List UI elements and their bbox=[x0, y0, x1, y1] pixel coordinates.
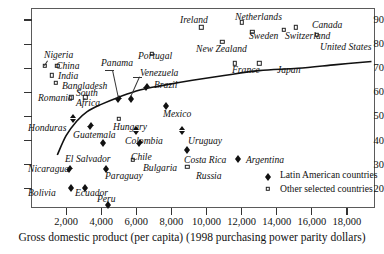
x-axis-tick bbox=[66, 208, 67, 215]
x-axis-tick-label: 18,000 bbox=[332, 216, 361, 227]
point-label-uruguay: Uruguay bbox=[188, 136, 222, 146]
x-axis-tick bbox=[206, 208, 207, 215]
point-label-hungary: Hungary bbox=[113, 122, 147, 132]
y-axis-tick bbox=[24, 44, 32, 45]
y-axis-tick bbox=[24, 140, 32, 141]
point-label-switzerland: Switzerland bbox=[285, 31, 330, 41]
legend-item-latin-american: Latin American countries bbox=[262, 168, 378, 182]
point-label-ireland: Ireland bbox=[180, 15, 208, 25]
point-label-venezuela: Venezuela bbox=[140, 68, 178, 78]
point-label-panama: Panama bbox=[101, 58, 133, 68]
point-label-netherlands: Netherlands bbox=[235, 12, 282, 22]
legend-label: Latin American countries bbox=[280, 169, 378, 180]
point-label-chile: Chile bbox=[131, 152, 152, 162]
x-axis-tick-label: 10,000 bbox=[192, 216, 221, 227]
scatter-chart: 2030405060708090 2,0004,0006,0008,00010,… bbox=[0, 0, 384, 254]
y-axis-tick bbox=[24, 92, 32, 93]
point-label-nigeria: Nigeria bbox=[44, 50, 73, 60]
x-axis-tick bbox=[171, 208, 172, 215]
leader-stub-1 bbox=[133, 77, 142, 78]
point-label-bulgaria: Bulgaria bbox=[143, 163, 177, 173]
y-axis-tick-label: 70 bbox=[362, 63, 384, 73]
x-axis-tick-label: 12,000 bbox=[227, 216, 256, 227]
x-axis-tick bbox=[276, 208, 277, 215]
data-point-paraguay bbox=[103, 165, 109, 169]
point-label-new-zealand: New Zealand bbox=[196, 44, 247, 54]
point-label-russia: Russia bbox=[196, 171, 222, 181]
x-axis-tick-label: 6,000 bbox=[124, 216, 148, 227]
x-axis-tick bbox=[311, 208, 312, 215]
point-label-peru: Peru bbox=[97, 194, 116, 204]
data-point-bolivia bbox=[68, 184, 74, 188]
x-axis-tick-label: 2,000 bbox=[54, 216, 78, 227]
data-point-russia bbox=[185, 165, 189, 169]
data-point-costa-rica bbox=[184, 146, 190, 150]
point-label-argentina: Argentina bbox=[246, 155, 284, 165]
point-label-sweden: Sweden bbox=[249, 31, 278, 41]
point-label-canada: Canada bbox=[312, 20, 342, 30]
point-label-south-africa: SouthAfrica bbox=[76, 88, 100, 108]
data-point-guatemala bbox=[88, 122, 94, 126]
x-axis-tick-label: 4,000 bbox=[89, 216, 113, 227]
data-point-bangladesh bbox=[53, 80, 57, 84]
leader-stub-0 bbox=[105, 70, 114, 71]
x-axis-tick bbox=[101, 208, 102, 215]
y-axis-tick bbox=[24, 68, 32, 69]
point-label-colombia: Colombia bbox=[125, 136, 163, 146]
point-label-honduras: Honduras bbox=[28, 123, 66, 133]
point-label-bolivia: Bolivia bbox=[28, 188, 56, 198]
open-square-icon bbox=[266, 187, 270, 191]
data-point-india bbox=[50, 73, 54, 77]
point-label-japan: Japan bbox=[277, 65, 300, 75]
point-label-france: France bbox=[232, 65, 260, 75]
x-axis-tick bbox=[136, 208, 137, 215]
data-point-argentina bbox=[235, 155, 241, 159]
data-point-ireland bbox=[199, 25, 203, 29]
x-axis-tick-label: 14,000 bbox=[262, 216, 291, 227]
data-point-brazil bbox=[144, 83, 150, 87]
data-point-canada bbox=[294, 25, 298, 29]
y-axis-tick-label: 60 bbox=[362, 87, 384, 97]
x-axis-tick bbox=[346, 208, 347, 215]
x-axis-tick-label: 16,000 bbox=[297, 216, 326, 227]
point-label-united-states: United States bbox=[320, 42, 371, 52]
point-label-nicaragua: Nicaragua bbox=[28, 164, 69, 174]
point-label-guatemala: Guatemala bbox=[73, 130, 116, 140]
y-axis-tick-label: 50 bbox=[362, 111, 384, 121]
filled-diamond-icon bbox=[265, 173, 271, 177]
data-point-mexico bbox=[163, 102, 169, 106]
data-point-honduras bbox=[70, 114, 76, 118]
y-axis-tick-label: 40 bbox=[362, 136, 384, 146]
point-label-portugal: Portugal bbox=[138, 51, 172, 61]
point-label-brazil: Brazil bbox=[154, 80, 177, 90]
point-label-el-salvador: El Salvador bbox=[65, 154, 111, 164]
y-axis-tick-label: 90 bbox=[362, 15, 384, 25]
point-label-costa-rica: Costa Rica bbox=[184, 155, 226, 165]
y-axis-tick bbox=[24, 116, 32, 117]
y-axis-tick bbox=[24, 19, 32, 20]
legend-item-other-selected: Other selected countries bbox=[262, 182, 378, 196]
x-axis-title: Gross domestic product (per capita) (199… bbox=[0, 231, 384, 243]
data-point-uruguay bbox=[179, 126, 185, 130]
x-axis-tick bbox=[241, 208, 242, 215]
legend-label: Other selected countries bbox=[280, 183, 373, 194]
point-label-paraguay: Paraguay bbox=[105, 171, 143, 181]
point-label-mexico: Mexico bbox=[163, 109, 191, 119]
x-axis-tick-label: 8,000 bbox=[160, 216, 184, 227]
point-label-romania: Romania bbox=[38, 93, 73, 103]
chart-legend: Latin American countries Other selected … bbox=[262, 168, 378, 196]
